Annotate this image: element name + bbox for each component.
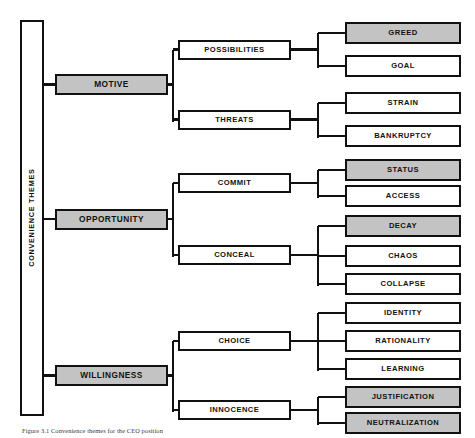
- category-node-conceal[interactable]: CONCEAL: [178, 245, 291, 265]
- convenience-themes-diagram: CONVENIENCE THEMESGREEDGOALPOSSIBILITIES…: [0, 0, 475, 438]
- category-node-label: COMMIT: [218, 179, 252, 187]
- leaf-node-label: GOAL: [391, 62, 415, 70]
- leaf-node-strain[interactable]: STRAIN: [345, 92, 461, 114]
- connector-leaf-identity: [318, 312, 345, 314]
- connector-theme-willingness-in: [44, 374, 55, 376]
- leaf-node-label: JUSTIFICATION: [372, 393, 435, 401]
- leaf-node-label: COLLAPSE: [381, 280, 426, 288]
- connector-cat-choice-bus: [317, 313, 319, 371]
- connector-leaf-chaos: [318, 255, 345, 257]
- connector-cat-threats-bus: [317, 103, 319, 138]
- leaf-node-decay[interactable]: DECAY: [345, 215, 461, 237]
- leaf-node-neutralization[interactable]: NEUTRALIZATION: [345, 412, 461, 434]
- category-node-choice[interactable]: CHOICE: [178, 331, 291, 351]
- connector-leaf-decay: [318, 225, 345, 227]
- theme-node-opportunity[interactable]: OPPORTUNITY: [55, 209, 168, 230]
- connector-leaf-bankruptcy: [318, 135, 345, 137]
- connector-theme-motive-out: [168, 83, 173, 85]
- connector-cat-threats-out: [291, 118, 318, 120]
- leaf-node-justification[interactable]: JUSTIFICATION: [345, 386, 461, 408]
- connector-leaf-rationality: [318, 340, 345, 342]
- category-node-label: INNOCENCE: [210, 406, 260, 414]
- connector-leaf-access: [318, 195, 345, 197]
- leaf-node-label: STRAIN: [388, 99, 419, 107]
- connector-theme-willingness-bus: [172, 341, 174, 412]
- connector-cat-commit-out: [291, 182, 318, 184]
- root-node: CONVENIENCE THEMES: [20, 20, 44, 416]
- connector-cat-choice-out: [291, 340, 318, 342]
- leaf-node-label: IDENTITY: [384, 309, 422, 317]
- connector-leaf-status: [318, 169, 345, 171]
- leaf-node-collapse[interactable]: COLLAPSE: [345, 273, 461, 295]
- connector-theme-opportunity-bus: [172, 183, 174, 257]
- connector-cat-conceal-bus: [317, 226, 319, 286]
- category-node-label: POSSIBILITIES: [204, 46, 264, 54]
- leaf-node-chaos[interactable]: CHAOS: [345, 245, 461, 267]
- figure-caption: Figure 3.1 Convenience themes for the CE…: [22, 427, 163, 438]
- category-node-threats[interactable]: THREATS: [178, 110, 291, 130]
- connector-leaf-strain: [318, 102, 345, 104]
- theme-node-motive[interactable]: MOTIVE: [55, 74, 168, 95]
- connector-leaf-justification: [318, 396, 345, 398]
- leaf-node-bankruptcy[interactable]: BANKRUPTCY: [345, 125, 461, 147]
- leaf-node-identity[interactable]: IDENTITY: [345, 302, 461, 324]
- connector-leaf-collapse: [318, 283, 345, 285]
- theme-node-label: MOTIVE: [94, 80, 129, 88]
- connector-cat-innocence-out: [291, 409, 318, 411]
- category-node-label: CONCEAL: [214, 251, 255, 259]
- connector-cat-conceal-out: [291, 254, 318, 256]
- connector-theme-willingness-out: [168, 374, 173, 376]
- connector-leaf-greed: [318, 32, 345, 34]
- theme-node-willingness[interactable]: WILLINGNESS: [55, 365, 168, 386]
- leaf-node-access[interactable]: ACCESS: [345, 185, 461, 207]
- connector-cat-innocence-bus: [317, 397, 319, 425]
- connector-leaf-learning: [318, 368, 345, 370]
- category-node-commit[interactable]: COMMIT: [178, 173, 291, 193]
- leaf-node-label: DECAY: [389, 222, 417, 230]
- connector-cat-commit-bus: [317, 170, 319, 198]
- connector-leaf-goal: [318, 65, 345, 67]
- leaf-node-rationality[interactable]: RATIONALITY: [345, 330, 461, 352]
- theme-node-label: WILLINGNESS: [80, 371, 143, 379]
- category-node-label: THREATS: [215, 116, 253, 124]
- leaf-node-goal[interactable]: GOAL: [345, 55, 461, 77]
- theme-node-label: OPPORTUNITY: [79, 215, 144, 223]
- category-node-label: CHOICE: [218, 337, 250, 345]
- leaf-node-label: RATIONALITY: [375, 337, 430, 345]
- connector-theme-opportunity-out: [168, 218, 173, 220]
- connector-cat-possibilities-bus: [317, 33, 319, 68]
- leaf-node-label: CHAOS: [388, 252, 418, 260]
- connector-leaf-neutralization: [318, 422, 345, 424]
- root-node-label: CONVENIENCE THEMES: [28, 169, 35, 267]
- connector-theme-motive-bus: [172, 50, 174, 122]
- leaf-node-label: ACCESS: [386, 192, 420, 200]
- connector-theme-motive-in: [44, 83, 55, 85]
- category-node-innocence[interactable]: INNOCENCE: [178, 400, 291, 420]
- leaf-node-learning[interactable]: LEARNING: [345, 358, 461, 380]
- connector-theme-opportunity-in: [44, 218, 55, 220]
- connector-cat-possibilities-out: [291, 48, 318, 50]
- leaf-node-label: LEARNING: [381, 365, 424, 373]
- leaf-node-label: STATUS: [387, 166, 419, 174]
- leaf-node-label: GREED: [388, 29, 417, 37]
- leaf-node-greed[interactable]: GREED: [345, 22, 461, 44]
- leaf-node-status[interactable]: STATUS: [345, 159, 461, 181]
- leaf-node-label: NEUTRALIZATION: [367, 419, 439, 427]
- category-node-possibilities[interactable]: POSSIBILITIES: [178, 40, 291, 60]
- leaf-node-label: BANKRUPTCY: [374, 132, 432, 140]
